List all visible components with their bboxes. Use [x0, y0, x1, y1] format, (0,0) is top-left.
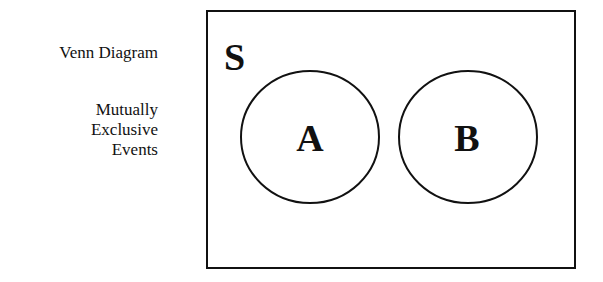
set-b-label: B — [454, 117, 479, 159]
sample-space-rect — [207, 11, 575, 268]
sample-space-label: S — [224, 36, 245, 78]
set-a-label: A — [296, 117, 324, 159]
venn-diagram: S A B — [0, 0, 603, 282]
